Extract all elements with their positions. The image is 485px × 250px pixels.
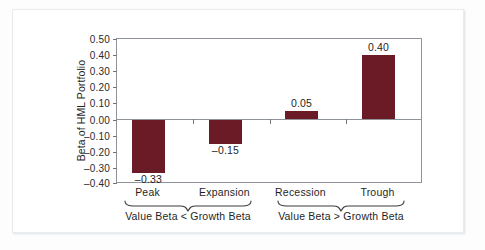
x-separator-tick <box>270 119 271 124</box>
x-category-label-expansion: Expansion <box>199 186 250 198</box>
y-axis-title: Beta of HML Portfolio <box>75 38 89 183</box>
bar-value-label-trough: 0.40 <box>368 41 389 53</box>
figure-canvas: Beta of HML Portfolio 0.50 0.40 0.30 0.2… <box>0 0 485 250</box>
y-tick-label: 0.30 <box>90 66 110 77</box>
plot-area: 0.50 0.40 0.30 0.20 0.10 0.00 –0.10 –0.2… <box>116 38 422 183</box>
y-tick-label: 0.20 <box>90 82 110 93</box>
y-tick-label: 0.40 <box>90 50 110 61</box>
y-tick-mark <box>113 168 117 169</box>
y-tick-label: –0.40 <box>84 178 110 189</box>
y-tick-mark <box>113 71 117 72</box>
y-tick-mark <box>113 183 117 184</box>
bar-peak[interactable] <box>132 120 165 173</box>
y-tick-label: –0.20 <box>84 146 110 157</box>
bar-trough[interactable] <box>362 55 395 119</box>
y-tick-label: 0.50 <box>90 34 110 45</box>
group-note-left: Value Beta < Growth Beta <box>125 210 251 222</box>
x-category-label-peak: Peak <box>135 186 160 198</box>
y-tick-label: –0.10 <box>84 130 110 141</box>
chart-card: Beta of HML Portfolio 0.50 0.40 0.30 0.2… <box>12 9 464 233</box>
bar-recession[interactable] <box>285 111 318 119</box>
y-tick-mark <box>113 87 117 88</box>
bar-value-label-recession: 0.05 <box>291 97 312 109</box>
y-tick-label: 0.10 <box>90 98 110 109</box>
y-tick-label: 0.00 <box>90 114 110 125</box>
x-category-label-trough: Trough <box>360 186 394 198</box>
x-category-label-recession: Recession <box>275 186 326 198</box>
bar-expansion[interactable] <box>209 120 242 144</box>
y-tick-mark <box>113 103 117 104</box>
group-note-right: Value Beta > Growth Beta <box>278 210 404 222</box>
x-separator-tick <box>346 119 347 124</box>
bar-value-label-expansion: –0.15 <box>212 144 239 156</box>
x-separator-tick <box>193 119 194 124</box>
y-tick-label: –0.30 <box>84 162 110 173</box>
bar-value-label-peak: –0.33 <box>135 173 162 185</box>
y-tick-mark <box>113 39 117 40</box>
y-tick-mark <box>113 136 117 137</box>
y-tick-mark <box>113 55 117 56</box>
y-tick-mark <box>113 152 117 153</box>
